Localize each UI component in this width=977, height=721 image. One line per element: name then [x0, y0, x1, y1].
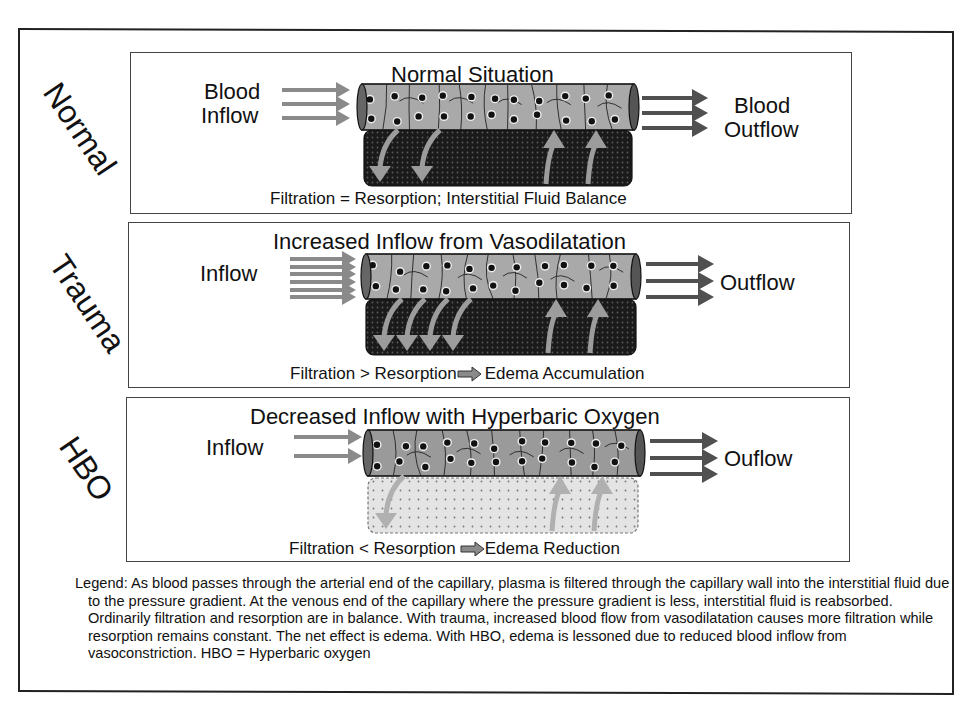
cell-nucleus [488, 111, 494, 117]
legend: Legend: As blood passes through the arte… [75, 575, 955, 663]
inflow-arrowhead [336, 96, 350, 112]
cell-nucleus [512, 288, 518, 294]
vessel-inlet-cap [361, 254, 371, 299]
cell-nucleus [606, 92, 612, 98]
cell-nucleus [468, 113, 474, 119]
cell-nucleus [583, 285, 589, 291]
cell-nucleus [444, 439, 450, 445]
cell-nucleus [591, 464, 597, 470]
cell-nucleus [420, 286, 426, 292]
cell-nucleus [367, 96, 373, 102]
cell-nucleus [396, 458, 402, 464]
capillary-vessel [361, 254, 641, 299]
cell-nucleus [491, 445, 497, 451]
cell-nucleus [374, 463, 380, 469]
cell-nucleus [561, 262, 567, 268]
vessel-body [366, 254, 636, 299]
cell-nucleus [466, 266, 472, 272]
cell-nucleus [610, 283, 616, 289]
outflow-arrowhead [698, 255, 714, 273]
cell-nucleus [519, 458, 525, 464]
legend-lead: Legend: [75, 575, 128, 591]
cell-nucleus [583, 95, 589, 101]
cell-nucleus [513, 264, 519, 270]
cell-nucleus [394, 118, 400, 124]
cell-nucleus [618, 443, 624, 449]
cell-nucleus [490, 282, 496, 288]
cell-nucleus [493, 459, 499, 465]
cell-nucleus [422, 464, 428, 470]
cell-nucleus [539, 455, 545, 461]
cell-nucleus [511, 97, 517, 103]
cell-nucleus [374, 442, 380, 448]
outflow-arrowhead [702, 449, 718, 467]
legend-abbrev-rest: Hyperbaric oxygen [249, 645, 371, 661]
outflow-arrowhead [698, 288, 714, 306]
cell-nucleus [397, 268, 403, 274]
cell-nucleus [403, 443, 409, 449]
cell-nucleus [569, 459, 575, 465]
cell-nucleus [471, 440, 477, 446]
capillary-diagram-hbo [294, 429, 718, 533]
cell-nucleus [393, 286, 399, 292]
cell-nucleus [420, 443, 426, 449]
cell-nucleus [589, 118, 595, 124]
cell-nucleus [610, 263, 616, 269]
cell-nucleus [441, 113, 447, 119]
cell-nucleus [470, 285, 476, 291]
cell-nucleus [561, 282, 567, 288]
inflow-arrowhead [336, 110, 350, 126]
cell-nucleus [563, 117, 569, 123]
outflow-arrowhead [692, 89, 708, 107]
cell-nucleus [536, 98, 542, 104]
cell-nucleus [488, 265, 494, 271]
cell-nucleus [542, 263, 548, 269]
capillary-diagram-normal [282, 82, 708, 186]
legend-paragraph: Legend: As blood passes through the arte… [75, 575, 955, 663]
cell-nucleus [588, 262, 594, 268]
vessel-inlet-cap [357, 84, 367, 130]
cell-nucleus [444, 262, 450, 268]
cell-nucleus [612, 116, 618, 122]
cell-nucleus [443, 288, 449, 294]
cell-nucleus [373, 283, 379, 289]
inflow-arrowhead [336, 82, 350, 98]
inflow-arrowhead [348, 448, 362, 464]
vessel-body [368, 430, 640, 476]
cell-nucleus [368, 116, 374, 122]
cell-nucleus [419, 95, 425, 101]
vessel-outlet-cap [629, 84, 639, 130]
cell-nucleus [415, 113, 421, 119]
vessel-outlet-cap [631, 254, 641, 299]
cell-nucleus [440, 92, 446, 98]
cell-nucleus [423, 263, 429, 269]
cell-nucleus [568, 440, 574, 446]
cell-nucleus [519, 438, 525, 444]
capillary-vessel [357, 84, 639, 130]
outflow-arrowhead [698, 272, 714, 290]
cell-nucleus [534, 112, 540, 118]
vessel-outlet-cap [635, 430, 645, 476]
cell-nucleus [593, 440, 599, 446]
outflow-arrowhead [702, 432, 718, 450]
cell-nucleus [612, 459, 618, 465]
outflow-arrowhead [692, 119, 708, 137]
cell-nucleus [562, 93, 568, 99]
legend-abbrev: HBO = [201, 645, 249, 661]
cell-nucleus [536, 279, 542, 285]
vessel-inlet-cap [363, 430, 373, 476]
cell-nucleus [468, 460, 474, 466]
cell-nucleus [542, 439, 548, 445]
outflow-arrowhead [692, 104, 708, 122]
inflow-arrowhead [348, 429, 362, 445]
cell-border [508, 84, 509, 130]
outflow-arrowhead [702, 465, 718, 483]
cell-nucleus [511, 116, 517, 122]
capillary-diagram-trauma [290, 251, 714, 355]
cell-nucleus [391, 93, 397, 99]
cell-nucleus [492, 96, 498, 102]
cell-nucleus [468, 94, 474, 100]
capillary-vessel [363, 430, 645, 476]
cell-nucleus [447, 456, 453, 462]
